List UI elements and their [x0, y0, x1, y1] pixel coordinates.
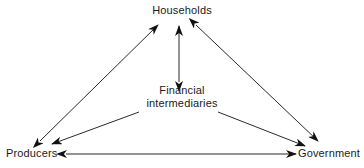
node-government: Government [298, 147, 360, 160]
node-financial-intermediaries-line1: Financial [0, 84, 364, 97]
edge-producers-households [40, 25, 158, 141]
node-financial-intermediaries-line2: intermediaries [0, 97, 364, 110]
node-producers: Producers [6, 147, 57, 160]
node-financial-intermediaries: Financial intermediaries [0, 84, 364, 109]
flow-diagram: Households Financial intermediaries Prod… [0, 0, 364, 168]
edge-households-government [196, 25, 318, 141]
edge-financial-government [218, 112, 305, 146]
node-households: Households [0, 4, 364, 17]
